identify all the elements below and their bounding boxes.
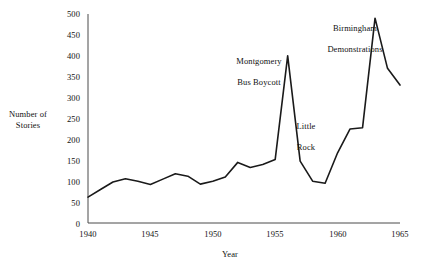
annotation-montgomery-line-1: Montgomery <box>236 56 281 66</box>
annotation-little-rock: Little Rock <box>288 110 324 152</box>
line-chart: 500 450 400 350 300 250 200 150 100 50 0… <box>0 0 424 279</box>
x-tick-1950: 1950 <box>195 229 231 240</box>
annotation-montgomery-line-2: Bus Boycott <box>237 77 280 87</box>
y-tick-200: 200 <box>54 135 80 146</box>
x-tick-1965: 1965 <box>382 229 418 240</box>
y-tick-500: 500 <box>54 9 80 20</box>
x-tick-1945: 1945 <box>132 229 168 240</box>
annotation-birmingham-demonstrations: Birmingham Demonstrations <box>318 12 392 54</box>
x-tick-1955: 1955 <box>257 229 293 240</box>
x-axis-title: Year <box>212 249 248 260</box>
annotation-little-rock-line-2: Rock <box>297 142 315 152</box>
y-tick-400: 400 <box>54 51 80 62</box>
y-tick-250: 250 <box>54 114 80 125</box>
y-tick-300: 300 <box>54 93 80 104</box>
x-tick-1960: 1960 <box>320 229 356 240</box>
y-tick-450: 450 <box>54 30 80 41</box>
annotation-birmingham-line-2: Demonstrations <box>327 44 382 54</box>
y-axis-title-line-1: Number of <box>9 109 47 119</box>
annotation-little-rock-line-1: Little <box>296 121 315 131</box>
x-tick-1940: 1940 <box>70 229 106 240</box>
y-axis-title: Number of Stories <box>4 109 52 130</box>
annotation-birmingham-line-1: Birmingham <box>333 23 377 33</box>
y-tick-50: 50 <box>54 198 80 209</box>
annotation-montgomery-bus-boycott: Montgomery Bus Boycott <box>228 45 290 87</box>
y-axis-title-line-2: Stories <box>16 120 40 130</box>
y-tick-100: 100 <box>54 177 80 188</box>
y-tick-350: 350 <box>54 72 80 83</box>
y-tick-150: 150 <box>54 156 80 167</box>
y-tick-0: 0 <box>54 219 80 230</box>
